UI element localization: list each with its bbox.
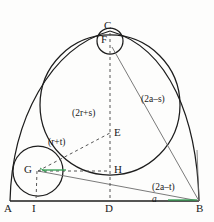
point-label-C: C [104,20,111,31]
length-label-r-plus-t: (r+t) [48,138,66,148]
length-label-2a-minus-t: (2a–t) [152,183,175,193]
point-label-I: I [32,203,36,214]
arc-C-to-B [110,31,199,201]
length-label-a: a [152,195,157,205]
length-label-2a-minus-s: (2a–s) [141,95,165,105]
point-label-A: A [4,203,12,214]
line-F-to-B [112,47,199,201]
length-label-2r-plus-s: (2r+s) [72,109,95,119]
point-label-F: F [101,34,107,45]
point-label-E: E [114,127,121,138]
point-label-D: D [105,203,113,214]
geometry-figure: C F E H G A I D B (2r+s) (r+t) (2a–s) (2… [0,0,214,222]
point-label-B: B [196,203,203,214]
point-label-G: G [24,164,32,175]
point-label-H: H [114,164,122,175]
